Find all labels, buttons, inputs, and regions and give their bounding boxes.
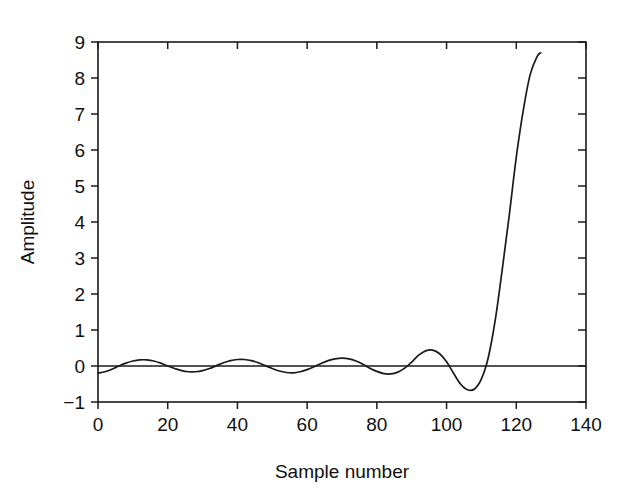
y-tick-label: 9 [74,32,85,53]
y-tick-label: 4 [74,212,85,233]
x-axis-tick-labels: 020406080100120140 [93,414,602,435]
y-axis-ticks [91,42,98,402]
y-tick-label: 8 [74,68,85,89]
x-tick-label: 100 [431,414,463,435]
x-tick-label: 140 [570,414,602,435]
line-chart: 020406080100120140 −10123456789 Sample n… [0,0,620,498]
x-axis-ticks [98,402,586,409]
x-tick-label: 60 [297,414,318,435]
y-tick-label: −1 [63,392,85,413]
x-axis-title: Sample number [275,461,410,482]
y-tick-label: 2 [74,284,85,305]
x-tick-label: 80 [366,414,387,435]
chart-figure: 020406080100120140 −10123456789 Sample n… [0,0,620,498]
y-axis-ticks-right [578,42,586,402]
y-tick-label: 7 [74,104,85,125]
y-axis-tick-labels: −10123456789 [63,32,85,413]
y-tick-label: 5 [74,176,85,197]
plot-frame [98,42,586,402]
x-tick-label: 20 [157,414,178,435]
y-tick-label: 6 [74,140,85,161]
x-tick-label: 120 [500,414,532,435]
y-tick-label: 0 [74,356,85,377]
x-axis-ticks-top [98,42,586,49]
y-tick-label: 3 [74,248,85,269]
y-tick-label: 1 [74,320,85,341]
waveform-curve [98,53,541,391]
x-tick-label: 40 [227,414,248,435]
x-tick-label: 0 [93,414,104,435]
y-axis-title: Amplitude [17,180,38,265]
